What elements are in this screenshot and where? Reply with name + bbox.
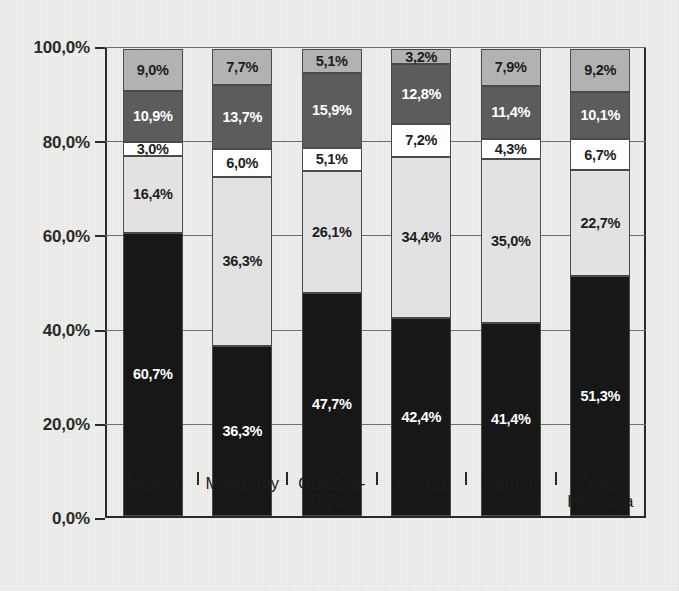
bar-segment-value-label: 36,3%: [222, 254, 262, 269]
bar-segment-value-label: 41,4%: [491, 412, 531, 427]
bar-segment[interactable]: 6,0%: [212, 149, 272, 177]
bar-segment-value-label: 5,1%: [316, 54, 348, 69]
y-tick-mark-40: [95, 330, 105, 332]
bar-segment-value-label: 60,7%: [133, 367, 173, 382]
bar-segment[interactable]: 5,1%: [302, 49, 362, 73]
x-category-label: México: [108, 474, 198, 492]
bar-segment-value-label: 11,4%: [491, 105, 530, 120]
x-category-label: Mérida: [377, 474, 467, 492]
bar-segment[interactable]: 11,4%: [481, 86, 541, 139]
bar-segment[interactable]: 9,0%: [123, 49, 183, 91]
bar-segment[interactable]: 10,9%: [123, 91, 183, 142]
bar-segment-value-label: 16,4%: [133, 187, 173, 202]
bar-segment-value-label: 7,9%: [495, 60, 527, 75]
bar-segment-value-label: 7,7%: [226, 60, 258, 75]
bar-segment[interactable]: 4,3%: [481, 139, 541, 159]
x-category-label-line: Carmín: [466, 474, 556, 492]
x-category-label-line: jara: [287, 492, 377, 510]
y-axis-line: [105, 47, 107, 518]
bar-group[interactable]: 60,7%16,4%3,0%10,9%9,0%: [123, 49, 183, 516]
bar-group[interactable]: 51,3%22,7%6,7%10,1%9,2%: [570, 49, 630, 516]
y-tick-label-40: 40,0%: [6, 321, 90, 341]
bar-segment[interactable]: 7,7%: [212, 49, 272, 85]
bar-segment-value-label: 3,0%: [137, 142, 169, 157]
bar-segment[interactable]: 15,9%: [302, 73, 362, 147]
gridline-80: [105, 141, 646, 142]
y-tick-mark-20: [95, 424, 105, 426]
bar-segment-value-label: 3,2%: [405, 50, 437, 65]
bar-group[interactable]: 42,4%34,4%7,2%12,8%3,2%: [391, 49, 451, 516]
x-category-label-line: Mérida: [377, 474, 467, 492]
y-tick-label-60: 60,0%: [6, 227, 90, 247]
y-tick-label-20: 20,0%: [6, 415, 90, 435]
bar-segment-value-label: 15,9%: [312, 103, 352, 118]
x-category-label-line: Hermosa: [556, 492, 646, 510]
bar-segment-value-label: 13,7%: [222, 110, 262, 125]
bar-segment[interactable]: 3,2%: [391, 49, 451, 64]
x-category-label: Carmín: [466, 474, 556, 492]
bar-group[interactable]: 41,4%35,0%4,3%11,4%7,9%: [481, 49, 541, 516]
bar-segment[interactable]: 13,7%: [212, 85, 272, 149]
bar-segment-value-label: 9,2%: [584, 63, 616, 78]
bar-segment[interactable]: 3,0%: [123, 142, 183, 156]
gridline-20: [105, 424, 646, 425]
bar-segment[interactable]: 35,0%: [481, 159, 541, 322]
bar-segment-value-label: 12,8%: [401, 87, 441, 102]
y-tick-label-0: 0,0%: [6, 509, 90, 529]
bar-segment-value-label: 10,9%: [133, 109, 173, 124]
bar-segment-value-label: 34,4%: [401, 230, 441, 245]
x-category-label-line: Guadala-: [287, 474, 377, 492]
bar-segment-value-label: 51,3%: [580, 389, 620, 404]
bar-segment-value-label: 10,1%: [580, 108, 620, 123]
y-tick-label-100: 100,0%: [6, 38, 90, 58]
bar-segment-value-label: 36,3%: [222, 424, 262, 439]
y-axis-labels: 100,0% 80,0% 60,0% 40,0% 20,0% 0,0%: [0, 0, 90, 591]
bar-segment[interactable]: 16,4%: [123, 156, 183, 233]
gridline-40: [105, 330, 646, 331]
y-tick-mark-100: [95, 47, 105, 49]
x-category-label: VillaHermosa: [556, 474, 646, 511]
bar-segment-value-label: 4,3%: [495, 142, 527, 157]
x-category-label: Guadala-jara: [287, 474, 377, 511]
plot-right-border: [644, 47, 646, 518]
bar-segment[interactable]: 7,2%: [391, 124, 451, 158]
x-category-label-line: Villa: [556, 474, 646, 492]
bar-segment-value-label: 22,7%: [580, 216, 620, 231]
bar-segment-value-label: 35,0%: [491, 234, 531, 249]
bar-segment-value-label: 6,7%: [584, 148, 616, 163]
bar-segment-value-label: 9,0%: [137, 63, 169, 78]
x-axis-line: [105, 516, 646, 518]
bar-segment-value-label: 6,0%: [226, 156, 258, 171]
x-category-label-line: Monterrey: [198, 474, 288, 492]
gridline-60: [105, 235, 646, 236]
bar-segment[interactable]: 7,9%: [481, 49, 541, 86]
x-category-label: Monterrey: [198, 474, 288, 492]
bar-segment[interactable]: 34,4%: [391, 157, 451, 318]
bar-segment-value-label: 26,1%: [312, 225, 352, 240]
bar-segment[interactable]: 10,1%: [570, 92, 630, 139]
bar-segment[interactable]: 9,2%: [570, 49, 630, 92]
bar-segment-value-label: 42,4%: [401, 410, 441, 425]
y-tick-mark-0: [95, 518, 105, 520]
bar-segment[interactable]: 22,7%: [570, 170, 630, 276]
bar-segment[interactable]: 36,3%: [212, 177, 272, 347]
y-tick-label-80: 80,0%: [6, 133, 90, 153]
bar-segment[interactable]: 5,1%: [302, 148, 362, 172]
bar-group[interactable]: 47,7%26,1%5,1%15,9%5,1%: [302, 49, 362, 516]
y-tick-mark-60: [95, 235, 105, 237]
bar-segment-value-label: 7,2%: [405, 133, 437, 148]
y-tick-mark-80: [95, 141, 105, 143]
bar-group[interactable]: 36,3%36,3%6,0%13,7%7,7%: [212, 49, 272, 516]
bar-segment[interactable]: 12,8%: [391, 64, 451, 124]
gridline-100: [105, 47, 646, 48]
bar-segment[interactable]: 26,1%: [302, 171, 362, 293]
bar-segment-value-label: 47,7%: [312, 397, 352, 412]
bar-segment[interactable]: 6,7%: [570, 139, 630, 170]
plot-area: 60,7%16,4%3,0%10,9%9,0%36,3%36,3%6,0%13,…: [105, 47, 646, 518]
x-category-label-line: México: [108, 474, 198, 492]
bar-segment-value-label: 5,1%: [316, 152, 348, 167]
chart-page: 100,0% 80,0% 60,0% 40,0% 20,0% 0,0% 60,7…: [0, 0, 679, 591]
